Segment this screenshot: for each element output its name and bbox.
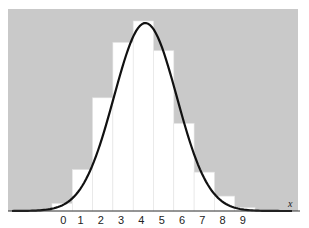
x-tick-label: 3 <box>118 214 124 226</box>
x-tick-label: 4 <box>138 214 144 226</box>
histogram-chart: 0123456789 x <box>0 0 309 228</box>
x-tick-label: 8 <box>220 214 226 226</box>
x-tick-label: 1 <box>77 214 83 226</box>
x-tick-label: 7 <box>199 214 205 226</box>
histogram-bar <box>72 170 92 211</box>
x-tick-label: 9 <box>240 214 246 226</box>
x-tick-label: 0 <box>60 214 66 226</box>
x-axis-variable-label: x <box>287 198 293 209</box>
histogram-bar <box>133 21 153 211</box>
x-tick-label: 5 <box>159 214 165 226</box>
x-axis-tick-labels: 0123456789 <box>60 214 246 226</box>
x-tick-label: 2 <box>98 214 104 226</box>
x-tick-label: 6 <box>179 214 185 226</box>
histogram-bar <box>174 123 194 211</box>
